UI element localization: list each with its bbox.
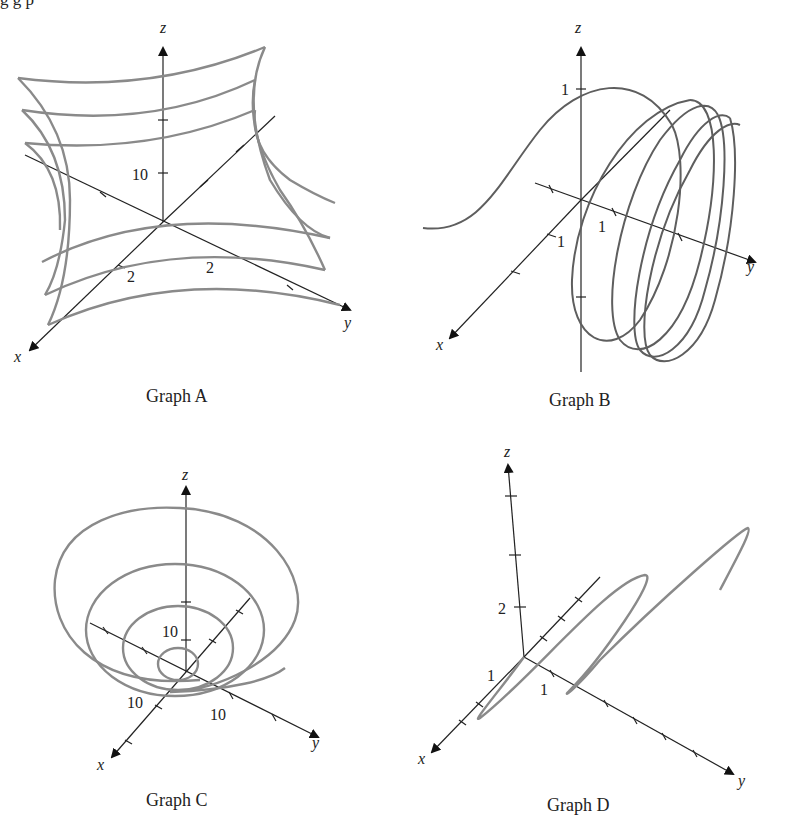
z-tick-label-c: 10 — [162, 623, 178, 640]
y-axis-label-d: y — [736, 772, 746, 790]
x-axis-label-b: x — [435, 336, 443, 353]
x-tick-label-a: 2 — [127, 268, 135, 285]
z-axis-label-b: z — [574, 19, 582, 36]
graph-b: z x y 1 1 1 — [423, 19, 755, 372]
y-axis-label-b: y — [745, 258, 755, 276]
z-axis-label-d: z — [503, 443, 511, 460]
y-axis-label-a: y — [342, 314, 352, 332]
y-tick-label-a: 2 — [206, 259, 214, 276]
x-axis-label-c: x — [96, 756, 104, 773]
graph-b-caption: Graph B — [549, 390, 611, 411]
graph-d-caption: Graph D — [547, 795, 609, 816]
graph-c: z x y 10 10 10 — [55, 466, 320, 773]
graph-d: z x y 2 1 1 — [417, 443, 749, 790]
z-axis-label-a: z — [159, 19, 167, 36]
y-axis-label-c: y — [310, 734, 320, 752]
y-tick-label-d: 1 — [540, 681, 548, 698]
z-tick-label-a: 10 — [132, 166, 148, 183]
x-tick-label-d: 1 — [487, 667, 495, 684]
x-tick-label-c: 10 — [127, 694, 143, 711]
x-axis-label-d: x — [417, 750, 425, 767]
figure-panel: z x y 10 2 2 z x y 1 1 1 — [0, 0, 802, 821]
graph-a: z x y 10 2 2 — [13, 19, 352, 365]
z-tick-label-d: 2 — [498, 600, 506, 617]
graph-a-caption: Graph A — [146, 386, 208, 407]
z-tick-label-b: 1 — [561, 81, 569, 98]
graph-c-caption: Graph C — [146, 790, 208, 811]
y-tick-label-c: 10 — [210, 706, 226, 723]
z-axis-label-c: z — [181, 466, 189, 483]
y-tick-label-b: 1 — [598, 218, 606, 235]
x-tick-label-b: 1 — [557, 233, 565, 250]
x-axis-label-a: x — [13, 348, 21, 365]
